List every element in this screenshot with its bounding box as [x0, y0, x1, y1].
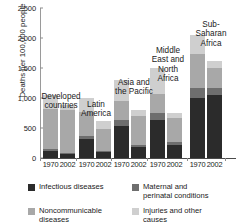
bar-segment: [43, 109, 58, 149]
bar-segment: [114, 126, 129, 158]
legend-swatch: [132, 184, 139, 191]
bar-segment: [150, 120, 165, 158]
bar-segment: [43, 151, 58, 158]
bar-segment: [79, 139, 94, 158]
bar-segment: [207, 95, 222, 158]
x-axis-tick-mark: [147, 158, 148, 161]
legend-label: Noncommunicable diseases: [39, 207, 102, 224]
legend-swatch: [28, 208, 35, 215]
bar-segment: [207, 88, 222, 95]
bar-segment: [60, 154, 75, 158]
stacked-bar[interactable]: [167, 113, 182, 158]
legend-item: Injuries and other causes: [132, 207, 240, 224]
x-axis-tick-label: 2002: [94, 160, 114, 169]
chart-legend: Infectious diseasesMaternal and perinata…: [28, 183, 240, 224]
y-axis-tick-label: 2,000: [0, 34, 36, 43]
stacked-bar[interactable]: [207, 61, 222, 158]
bar-segment: [207, 61, 222, 68]
bar-segment: [190, 98, 205, 158]
x-axis-tick-label: 2002: [129, 160, 149, 169]
legend-item: Maternal and perinatal conditions: [132, 183, 240, 200]
bar-segment: [150, 113, 165, 120]
legend-label: Maternal and perinatal conditions: [143, 183, 208, 200]
bar-segment: [131, 116, 146, 145]
y-axis-tick-label: 1,500: [0, 64, 36, 73]
x-axis-tick-mark: [76, 158, 77, 161]
bar-group-title: Latin America: [68, 100, 124, 119]
legend-label: Infectious diseases: [39, 183, 104, 192]
x-axis-tick-label: 2002: [165, 160, 185, 169]
legend-label: Injuries and other causes: [143, 207, 202, 224]
y-axis-line: [40, 8, 41, 159]
legend-item: Noncommunicable diseases: [28, 207, 132, 224]
bar-segment: [167, 145, 182, 158]
bar-segment: [131, 147, 146, 158]
x-axis-tick-label: 2002: [58, 160, 78, 169]
bar-group-title: Middle East and North Africa: [142, 46, 194, 84]
bar-segment: [207, 68, 222, 88]
bar-segment: [96, 129, 111, 150]
x-axis-tick-mark: [40, 158, 41, 161]
y-axis-tick-mark: [40, 68, 43, 69]
bar-segment: [96, 121, 111, 129]
legend-swatch: [28, 184, 35, 191]
chart-root: Deaths per 100,000 people 05001,0001,500…: [0, 0, 243, 224]
x-axis-line: [40, 158, 236, 159]
y-axis-tick-label: 2,500: [0, 4, 36, 13]
bar-group: [190, 35, 222, 158]
bar-segment: [190, 88, 205, 98]
y-axis-tick-label: 0: [0, 154, 36, 163]
x-axis-tick-mark: [187, 158, 188, 161]
legend-swatch: [132, 208, 139, 215]
x-axis-tick-mark: [111, 158, 112, 161]
stacked-bar[interactable]: [96, 121, 111, 158]
x-axis-tick-mark: [225, 158, 226, 161]
bar-segment: [96, 152, 111, 158]
stacked-bar[interactable]: [131, 110, 146, 158]
bar-segment: [167, 118, 182, 142]
y-axis-tick-mark: [40, 8, 43, 9]
x-axis-tick-label: 2002: [205, 160, 225, 169]
bar-group-title: Sub- Saharan Africa: [183, 20, 239, 48]
legend-item: Infectious diseases: [28, 183, 132, 200]
y-axis-tick-label: 500: [0, 124, 36, 133]
y-axis-tick-mark: [40, 38, 43, 39]
